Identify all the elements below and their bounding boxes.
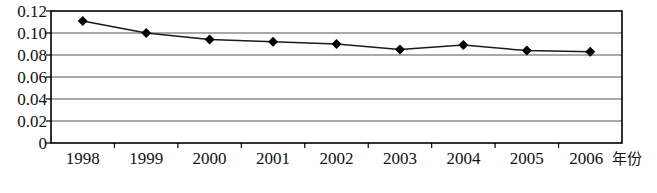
data-point-marker	[332, 39, 342, 49]
data-point-marker	[522, 46, 532, 56]
series-markers	[78, 16, 596, 57]
x-tick-label: 2000	[178, 148, 241, 170]
x-tick-label: 2006	[555, 148, 618, 170]
data-point-marker	[458, 40, 468, 50]
data-point-marker	[395, 45, 405, 55]
x-tick-label: 2002	[305, 148, 368, 170]
x-tick-label: 2004	[432, 148, 495, 170]
x-axis-labels: 1998 1999 2000 2001 2002 2003 2004 2005 …	[51, 148, 622, 178]
data-point-marker	[141, 28, 151, 38]
x-tick-label: 2001	[241, 148, 304, 170]
data-point-marker	[268, 37, 278, 47]
line-chart: 0.12 0.10 0.08 0.06 0.04 0.02 0	[0, 0, 657, 193]
data-point-marker	[78, 16, 88, 26]
series-1	[78, 16, 596, 57]
x-axis-title: 年份	[612, 148, 642, 170]
x-tick-label: 1998	[51, 148, 114, 170]
data-point-marker	[205, 35, 215, 45]
x-tick-label: 2003	[368, 148, 431, 170]
x-tick-label: 2005	[495, 148, 558, 170]
x-tick-label: 1999	[114, 148, 177, 170]
